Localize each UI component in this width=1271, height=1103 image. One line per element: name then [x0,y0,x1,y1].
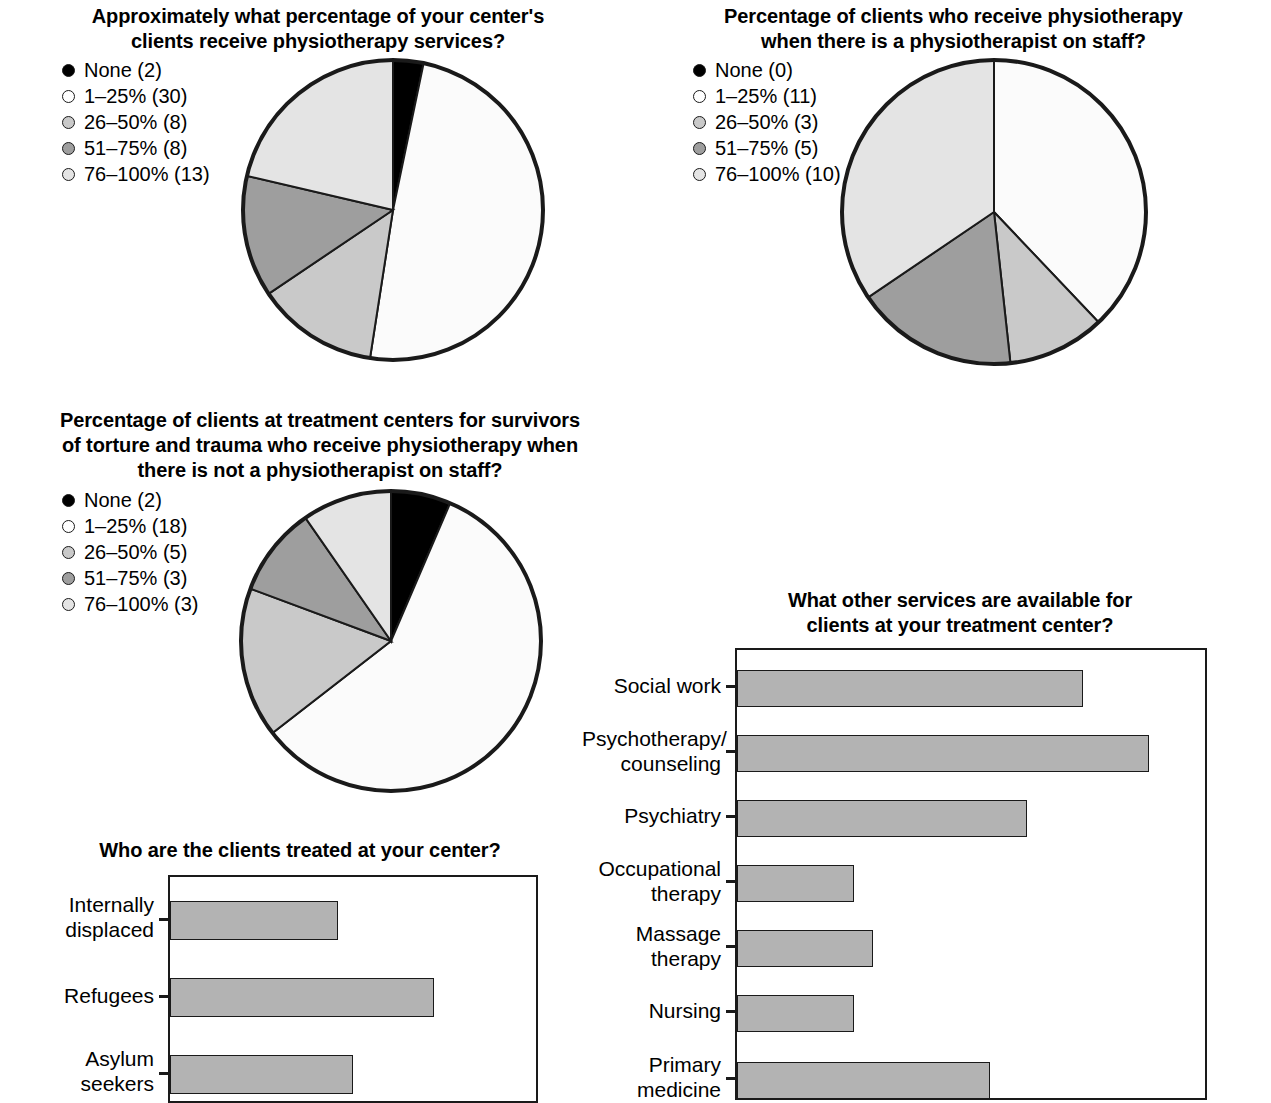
bar-label-internally-displaced: Internally displaced [10,892,154,942]
pie2-title: Percentage of clients who receive physio… [636,4,1271,54]
legend-item: 76–100% (13) [62,161,210,187]
bar-clients-plot [168,875,538,1103]
bar-psychiatry [737,800,1027,837]
pie2-chart [836,54,1152,370]
legend-item: None (2) [62,57,210,83]
legend-item: 26–50% (8) [62,109,210,135]
bar-label-psychiatry: Psychiatry [590,803,721,828]
axis-tick [159,1072,169,1075]
legend-item-label: 1–25% (11) [715,85,817,107]
bar-services-title: What other services are available for cl… [710,588,1210,638]
legend-swatch-51-75-icon [62,572,75,585]
legend-swatch-51-75-icon [693,142,706,155]
pie3-legend: None (2) 1–25% (18) 26–50% (5) 51–75% (3… [62,487,199,617]
legend-item-label: 26–50% (8) [84,111,187,133]
legend-swatch-none-icon [62,64,75,77]
pie2-svg [836,54,1152,370]
legend-swatch-1-25-icon [62,90,75,103]
bar-refugees [170,978,434,1017]
bar-services-title-line2: clients at your treatment center? [710,613,1210,638]
bar-social-work [737,670,1083,707]
legend-item: None (2) [62,487,199,513]
bar-services-title-line1: What other services are available for [710,588,1210,613]
legend-item-label: 1–25% (30) [84,85,187,107]
bar-label-asylum-seekers: Asylum seekers [10,1046,154,1096]
legend-item-label: None (0) [715,59,793,81]
bar-services-plot [735,648,1207,1100]
legend-swatch-1-25-icon [693,90,706,103]
legend-swatch-76-100-icon [62,598,75,611]
legend-swatch-none-icon [62,494,75,507]
pie3-title-line3: there is not a physiotherapist on staff? [40,458,600,483]
legend-item: 1–25% (30) [62,83,210,109]
legend-item-label: 26–50% (5) [84,541,187,563]
legend-item-label: 76–100% (13) [84,163,210,185]
pie2-legend: None (0) 1–25% (11) 26–50% (3) 51–75% (5… [693,57,841,187]
bar-massage-therapy [737,930,873,967]
bar-row [737,800,1205,837]
legend-item-label: 1–25% (18) [84,515,187,537]
pie3-title-line1: Percentage of clients at treatment cente… [40,408,600,433]
pie1-chart [237,54,549,366]
legend-item-label: None (2) [84,489,162,511]
panel-pie-without-physiotherapist: Percentage of clients at treatment cente… [0,400,640,820]
bar-row [737,865,1205,902]
bar-row [737,930,1205,967]
legend-item-label: 76–100% (3) [84,593,199,615]
legend-swatch-26-50-icon [62,116,75,129]
legend-item: 76–100% (3) [62,591,199,617]
axis-tick [726,880,736,883]
legend-swatch-26-50-icon [62,546,75,559]
legend-item: 51–75% (8) [62,135,210,161]
pie3-svg [235,485,547,797]
legend-item: 76–100% (10) [693,161,841,187]
pie1-title-line1: Approximately what percentage of your ce… [0,4,636,29]
legend-item-label: 76–100% (10) [715,163,841,185]
legend-item: 51–75% (3) [62,565,199,591]
bar-nursing [737,995,854,1032]
legend-item: 26–50% (5) [62,539,199,565]
bar-label-occupational-therapy: Occupational therapy [590,856,721,906]
axis-tick [726,815,736,818]
bar-occupational-therapy [737,865,854,902]
bar-row [170,978,536,1017]
bar-clients-title: Who are the clients treated at your cent… [60,838,540,863]
legend-item-label: None (2) [84,59,162,81]
bar-label-refugees: Refugees [10,983,154,1008]
legend-swatch-26-50-icon [693,116,706,129]
legend-item: 1–25% (11) [693,83,841,109]
axis-tick [726,1010,736,1013]
legend-item-label: 26–50% (3) [715,111,818,133]
bar-row [737,735,1205,772]
bar-row [737,670,1205,707]
legend-item: 51–75% (5) [693,135,841,161]
bar-internally-displaced [170,901,338,940]
legend-swatch-1-25-icon [62,520,75,533]
axis-tick [726,685,736,688]
pie1-legend: None (2) 1–25% (30) 26–50% (8) 51–75% (8… [62,57,210,187]
panel-bar-who-are-clients: Who are the clients treated at your cent… [0,830,590,1098]
bar-psychotherapy-counseling [737,735,1149,772]
legend-item: 26–50% (3) [693,109,841,135]
bar-label-massage-therapy: Massage therapy [590,921,721,971]
bar-label-nursing: Nursing [590,998,721,1023]
axis-tick [726,750,736,753]
legend-item-label: 51–75% (5) [715,137,818,159]
axis-tick [159,918,169,921]
legend-item: None (0) [693,57,841,83]
bar-label-psychotherapy-counseling: Psychotherapy/ counseling [582,726,721,776]
legend-swatch-none-icon [693,64,706,77]
legend-item-label: 51–75% (8) [84,137,187,159]
axis-tick [726,1077,736,1080]
panel-pie-with-physiotherapist: Percentage of clients who receive physio… [636,0,1271,395]
bar-label-primary-medicine: Primary medicine [590,1052,721,1102]
legend-item: 1–25% (18) [62,513,199,539]
panel-bar-other-services: What other services are available for cl… [590,580,1271,1098]
axis-tick [726,945,736,948]
bar-row [737,1062,1205,1099]
legend-swatch-76-100-icon [693,168,706,181]
bar-row [170,901,536,940]
legend-swatch-76-100-icon [62,168,75,181]
pie1-svg [237,54,549,366]
bar-asylum-seekers [170,1055,353,1094]
